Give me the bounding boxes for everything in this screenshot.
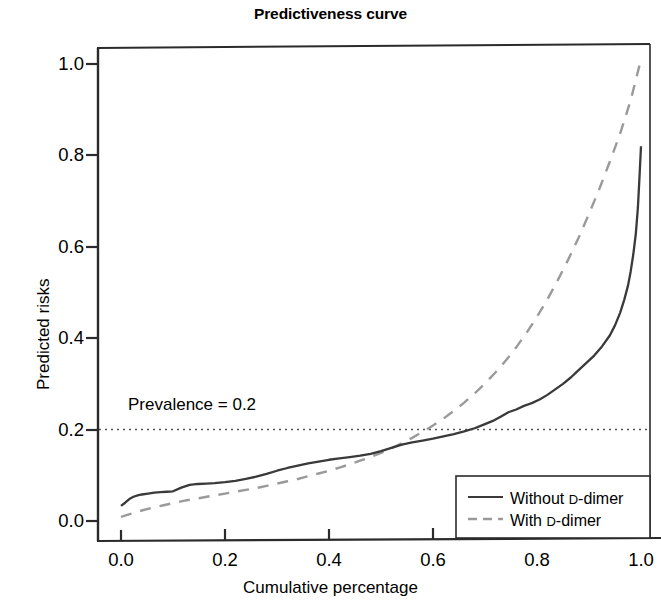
plot-canvas: Without D-dimer With D-dimer <box>0 0 661 603</box>
legend: Without D-dimer With D-dimer <box>456 476 650 538</box>
predictiveness-curve-figure: Predictiveness curve Predicted risks Cum… <box>0 0 661 603</box>
x-axis-label: Cumulative percentage <box>0 578 661 598</box>
x-tick-label: 0.4 <box>316 549 342 571</box>
series-line-with-d-dimer <box>121 59 641 516</box>
y-tick-label: 0.6 <box>38 236 84 258</box>
series-line-without-d-dimer <box>121 146 641 506</box>
x-tick-label: 1.0 <box>628 549 654 571</box>
legend-label-without-d-dimer: Without D-dimer <box>510 490 624 507</box>
plot-frame-top <box>97 44 650 48</box>
x-tick-label: 0.8 <box>524 549 550 571</box>
y-tick-label: 0.4 <box>38 327 84 349</box>
y-axis-ticks <box>86 64 98 521</box>
x-tick-label: 0.0 <box>108 549 134 571</box>
legend-label-with-d-dimer: With D-dimer <box>510 512 602 529</box>
y-tick-label: 0.2 <box>38 419 84 441</box>
y-tick-label: 0.0 <box>38 510 84 532</box>
chart-title: Predictiveness curve <box>0 5 661 23</box>
y-tick-label: 0.8 <box>38 144 84 166</box>
x-tick-label: 0.2 <box>212 549 238 571</box>
y-tick-label-group: 1.0 0.8 0.6 0.4 0.2 0.0 <box>28 0 84 603</box>
prevalence-annotation: Prevalence = 0.2 <box>128 395 256 415</box>
x-tick-label: 0.6 <box>420 549 446 571</box>
y-tick-label: 1.0 <box>38 53 84 75</box>
